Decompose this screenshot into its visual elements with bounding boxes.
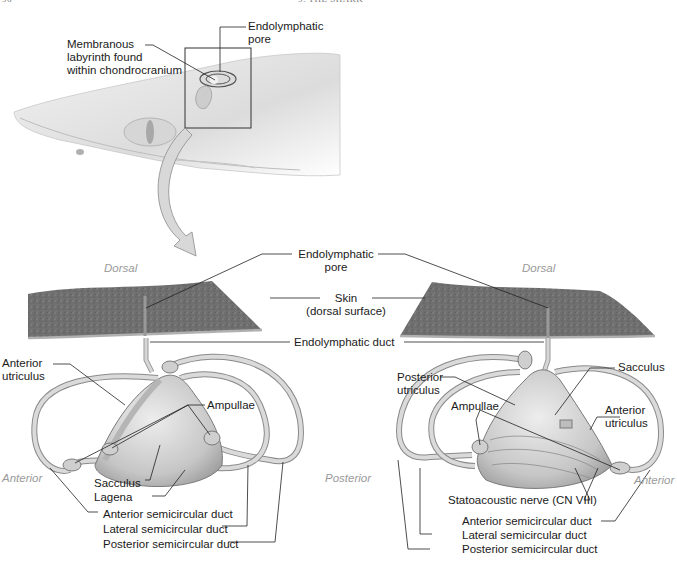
label-line: Membranous [67, 38, 182, 51]
label-line: labyrinth found [67, 51, 182, 64]
label-endolymphatic-duct: Endolymphatic duct [294, 336, 394, 349]
label-line: Skin [296, 292, 396, 305]
label-line: utriculus [2, 370, 45, 383]
label-line: Anterior [605, 404, 648, 417]
label-anterior-semicircular-duct-left: Anterior semicircular duct [103, 508, 233, 521]
label-lateral-semicircular-duct-right: Lateral semicircular duct [462, 529, 587, 542]
label-line: (dorsal surface) [296, 305, 396, 318]
label-posterior-semicircular-duct-left: Posterior semicircular duct [103, 538, 238, 551]
label-posterior-semicircular-duct-right: Posterior semicircular duct [462, 543, 597, 556]
label-anterior-utriculus-left: Anterior utriculus [2, 357, 45, 383]
left-labyrinth [34, 338, 301, 487]
label-anterior-utriculus-right: Anterior utriculus [605, 404, 648, 430]
label-line: pore [296, 261, 376, 274]
label-line: within chondrocranium [67, 64, 182, 77]
label-lateral-semicircular-duct-left: Lateral semicircular duct [103, 523, 228, 536]
orientation-posterior: Posterior [325, 472, 371, 484]
orientation-anterior-right: Anterior [634, 474, 674, 486]
label-line: utriculus [605, 417, 648, 430]
left-skin-panel [28, 281, 262, 338]
label-lagena: Lagena [94, 491, 132, 504]
label-line: Posterior [397, 371, 443, 384]
orientation-dorsal-right: Dorsal [522, 262, 555, 274]
label-line: Anterior [2, 357, 45, 370]
label-posterior-utriculus: Posterior utriculus [397, 371, 443, 397]
right-skin-panel [400, 282, 655, 338]
label-line: Endolymphatic [248, 20, 323, 33]
label-sacculus-left: Sacculus [94, 477, 141, 490]
label-membranous-labyrinth: Membranous labyrinth found within chondr… [67, 38, 182, 77]
orientation-dorsal-left: Dorsal [104, 262, 137, 274]
label-ampullae-right: Ampullae [451, 400, 499, 413]
orientation-anterior-left: Anterior [2, 472, 42, 484]
label-statoacoustic-nerve: Statoacoustic nerve (CN VIII) [448, 494, 597, 507]
label-skin: Skin (dorsal surface) [296, 292, 396, 318]
label-line: Endolymphatic [296, 248, 376, 261]
label-line: utriculus [397, 384, 443, 397]
membranous-labyrinth-figure: 96 9: THE SHARK [0, 0, 677, 570]
label-overview-endolymphatic-pore: Endolymphatic pore [248, 20, 323, 46]
label-line: pore [248, 33, 323, 46]
label-ampullae-left: Ampullae [207, 399, 255, 412]
label-anterior-semicircular-duct-right: Anterior semicircular duct [462, 515, 592, 528]
label-endolymphatic-pore: Endolymphatic pore [296, 248, 376, 274]
label-sacculus-right: Sacculus [618, 361, 665, 374]
